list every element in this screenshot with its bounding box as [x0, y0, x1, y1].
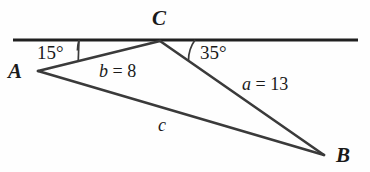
vertex-label-b: B — [336, 145, 350, 166]
vertex-label-a: A — [8, 61, 22, 82]
segment-a-C-to-B — [160, 41, 324, 155]
side-label-a: a = 13 — [242, 75, 288, 93]
angle-measure-at-c: 35° — [200, 43, 227, 62]
diagram-canvas — [0, 0, 370, 172]
vertex-label-c: C — [152, 8, 166, 29]
side-label-b: b = 8 — [99, 62, 136, 80]
angle-arc-15-degrees-tail — [78, 40, 79, 62]
geometry-diagram: A B C 15° 35° b = 8 a = 13 c — [0, 0, 370, 172]
angle-arc-35-degrees — [188, 40, 195, 60]
angle-measure-at-a: 15° — [37, 43, 64, 62]
side-label-c: c — [158, 116, 166, 134]
